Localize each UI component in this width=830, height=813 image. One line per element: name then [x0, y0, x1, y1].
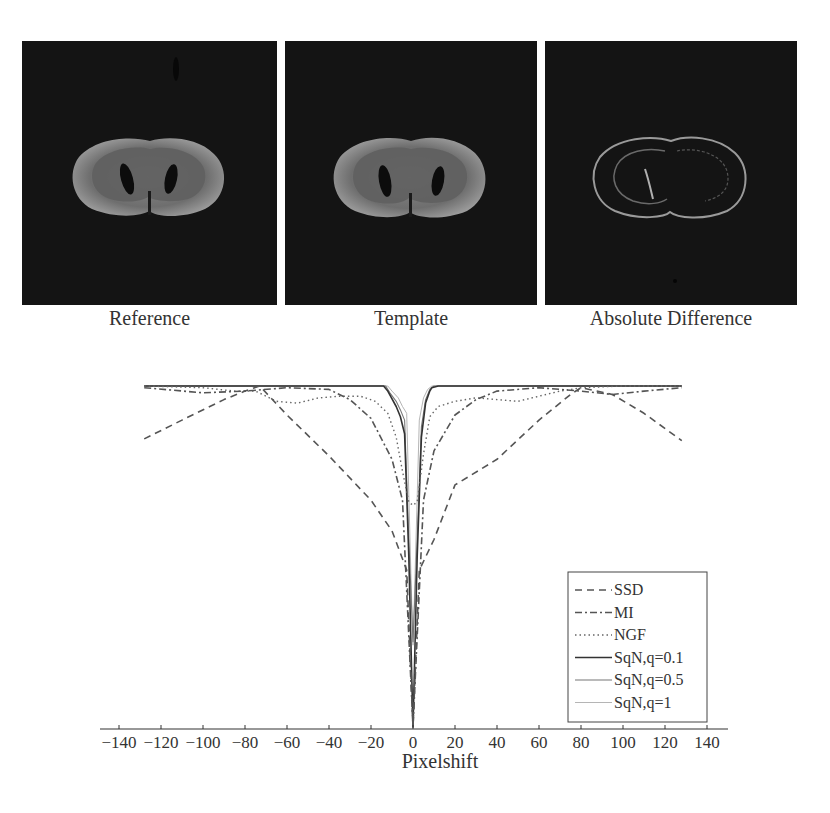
tick-label: 40 — [489, 733, 506, 752]
tick-label: −140 — [101, 733, 136, 752]
legend: SSDMINGFSqN,q=0.1SqN,q=0.5SqN,q=1 — [568, 572, 707, 722]
legend-label: MI — [614, 604, 634, 621]
tick-label: −40 — [316, 733, 343, 752]
legend-label: SSD — [614, 581, 643, 598]
legend-label: SqN,q=0.5 — [614, 671, 683, 689]
tick-label: −80 — [232, 733, 259, 752]
legend-label: SqN,q=0.1 — [614, 649, 683, 667]
tick-label: −60 — [274, 733, 301, 752]
x-axis-label: Pixelshift — [402, 750, 479, 772]
tick-label: −100 — [185, 733, 220, 752]
tick-label: 100 — [610, 733, 636, 752]
series-ngf — [144, 386, 682, 505]
tick-label: 60 — [531, 733, 548, 752]
tick-label: 80 — [573, 733, 590, 752]
tick-label: 140 — [694, 733, 720, 752]
tick-label: −120 — [143, 733, 178, 752]
tick-label: −20 — [358, 733, 385, 752]
tick-label: 120 — [652, 733, 678, 752]
legend-label: NGF — [614, 626, 646, 643]
similarity-measure-plot: −140−120−100−80−60−40−200204060801001201… — [0, 0, 830, 813]
legend-label: SqN,q=1 — [614, 694, 671, 712]
